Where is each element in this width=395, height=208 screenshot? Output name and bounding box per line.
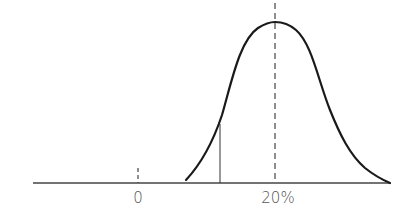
bell-curve (186, 22, 390, 183)
x-tick-label-zero: 0 (133, 189, 143, 207)
distribution-chart: 0 20% (0, 0, 395, 208)
x-tick-label-twenty: 20% (261, 189, 294, 207)
